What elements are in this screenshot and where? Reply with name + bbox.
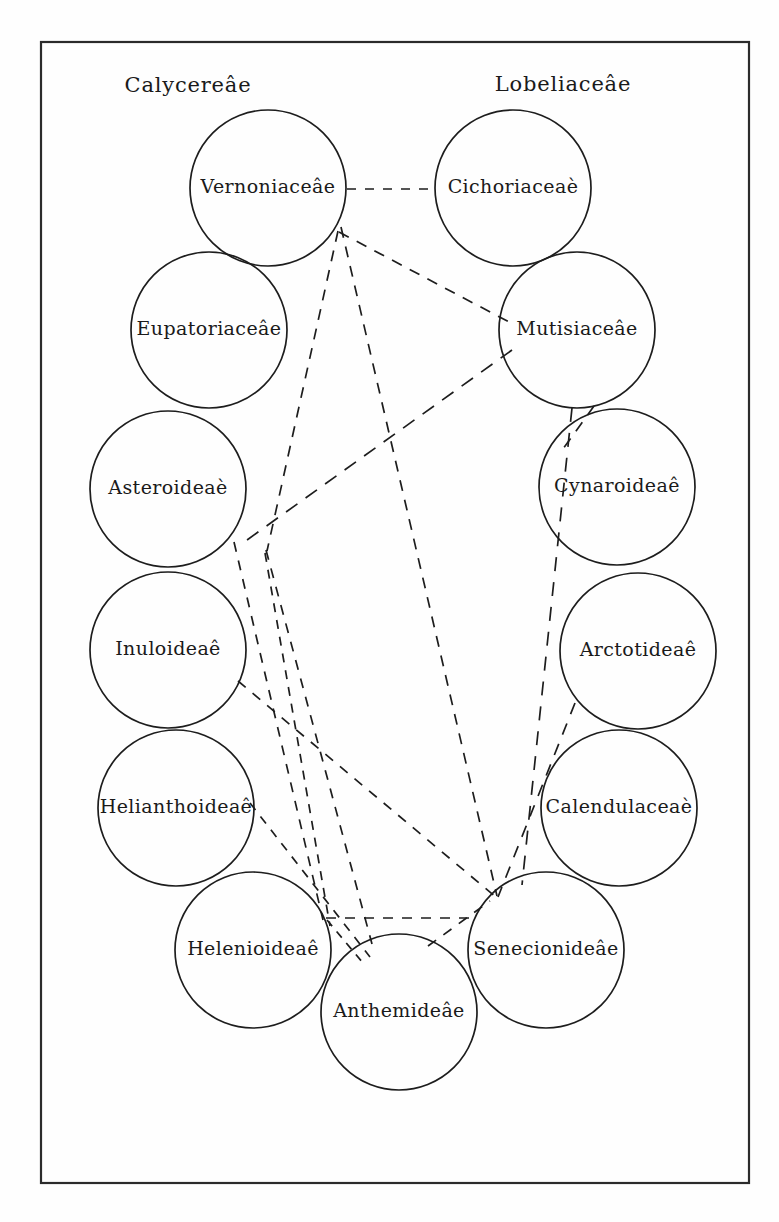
figure-page: VernoniaceâeCichoriaceaèEupatoriaceâeMut…: [0, 0, 779, 1222]
node-helenioideae[interactable]: Helenioideaê: [175, 872, 331, 1028]
node-cynaroideae[interactable]: Cynaroideaê: [539, 409, 695, 565]
node-layer: VernoniaceâeCichoriaceaèEupatoriaceâeMut…: [90, 110, 716, 1090]
edge-hub-helenioideae-lower: [265, 553, 330, 926]
edge-inuloideae-senecionideae: [238, 681, 497, 898]
node-label-calendulaceae: Calendulaceaè: [546, 795, 693, 817]
header-lobeliaceae: Lobeliaceâe: [495, 72, 631, 96]
node-label-senecionideae: Senecionideâe: [473, 937, 618, 959]
node-inuloideae[interactable]: Inuloideaê: [90, 572, 246, 728]
node-label-inuloideae: Inuloideaê: [115, 637, 221, 659]
edge-mutisiaceae-asteroideae: [240, 350, 512, 545]
column-header-layer: CalycereâeLobeliaceâe: [125, 72, 632, 97]
header-calycereae: Calycereâe: [125, 73, 252, 97]
node-mutisiaceae[interactable]: Mutisiaceâe: [499, 252, 655, 408]
edge-vernoniaceae-senecionideae: [341, 227, 497, 896]
edge-asteroideae-helenioideae: [234, 542, 323, 920]
node-arctotideae[interactable]: Arctotideaê: [560, 573, 716, 729]
node-label-cichoriaceae: Cichoriaceaè: [448, 175, 579, 197]
node-calendulaceae[interactable]: Calendulaceaè: [541, 730, 697, 886]
node-label-cynaroideae: Cynaroideaê: [554, 474, 680, 496]
node-label-helianthoideae: Helianthoideaê: [100, 795, 253, 817]
node-label-helenioideae: Helenioideaê: [187, 937, 319, 959]
node-vernoniaceae[interactable]: Vernoniaceâe: [190, 110, 346, 266]
node-label-anthemideae: Anthemideâe: [332, 999, 465, 1021]
node-label-arctotideae: Arctotideaê: [579, 638, 697, 660]
edge-vernoniaceae-hub: [267, 231, 338, 551]
node-anthemideae[interactable]: Anthemideâe: [321, 934, 477, 1090]
node-senecionideae[interactable]: Senecionideâe: [468, 872, 624, 1028]
node-asteroideae[interactable]: Asteroideaè: [90, 411, 246, 567]
node-label-eupatoriaceae: Eupatoriaceâe: [137, 317, 282, 339]
node-helianthoideae[interactable]: Helianthoideaê: [98, 730, 254, 886]
node-cichoriaceae[interactable]: Cichoriaceaè: [435, 110, 591, 266]
diagram-canvas: VernoniaceâeCichoriaceaèEupatoriaceâeMut…: [0, 0, 779, 1222]
node-label-mutisiaceae: Mutisiaceâe: [516, 317, 637, 339]
node-label-vernoniaceae: Vernoniaceâe: [200, 175, 336, 197]
node-eupatoriaceae[interactable]: Eupatoriaceâe: [131, 252, 287, 408]
node-label-asteroideae: Asteroideaè: [107, 476, 227, 498]
